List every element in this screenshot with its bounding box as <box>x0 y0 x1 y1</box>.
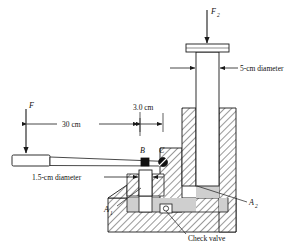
dim-5cm-diameter: 5-cm diameter <box>170 64 284 73</box>
point-c-label: C <box>159 146 165 155</box>
point-b-label: B <box>140 146 145 155</box>
handle-arm <box>50 157 167 166</box>
force-f-annotation: F <box>26 101 34 153</box>
force-f2-subscript: 2 <box>217 12 220 18</box>
small-piston-assembly <box>139 170 152 196</box>
base-left-chamfer <box>108 185 127 198</box>
area-a2-subscript: 2 <box>255 203 258 209</box>
small-piston <box>139 170 152 196</box>
dim-5cm-label: 5-cm diameter <box>240 64 284 73</box>
dim-1p5cm-label: 1.5-cm diameter <box>32 173 82 182</box>
large-cylinder-right-wall <box>219 108 236 232</box>
dim-30cm: 30 cm <box>27 112 140 136</box>
point-labels: B C <box>140 146 165 155</box>
dim-3cm-label: 3.0 cm <box>133 103 154 112</box>
handle-grip <box>12 155 50 166</box>
area-a1-label: A <box>103 205 109 214</box>
dim-30cm-label: 30 cm <box>62 120 81 129</box>
check-valve-ball <box>163 206 168 211</box>
large-piston-rod <box>196 52 219 186</box>
area-a2-label: A <box>248 198 254 207</box>
fluid-passage <box>139 196 152 212</box>
force-f2-annotation: F 2 <box>207 7 220 43</box>
figure-canvas: F 2 F 30 cm 3.0 cm 5-cm diameter 1.5-cm … <box>0 0 296 250</box>
dim-3cm: 3.0 cm <box>133 103 163 132</box>
pivot-b-square <box>141 158 149 166</box>
large-cylinder-left-wall <box>182 108 196 186</box>
check-valve-assembly <box>160 204 172 213</box>
force-f2-label: F <box>210 7 216 16</box>
hydraulic-jack-diagram: F 2 F 30 cm 3.0 cm 5-cm diameter 1.5-cm … <box>0 0 296 250</box>
area-a1-subscript: 1 <box>110 210 113 216</box>
force-f-label: F <box>28 101 34 110</box>
check-valve-label: Check valve <box>188 234 226 243</box>
